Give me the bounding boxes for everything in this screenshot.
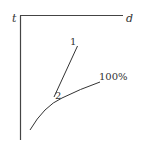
curve-label-100-percent: 100% [99,71,128,82]
label-2: 2 [55,90,61,101]
line-1-label: 1 [70,36,76,47]
axis-label-d: d [126,12,133,25]
axis-label-t: t [12,12,17,25]
curve-100-percent [30,82,100,130]
diagram: t d 1 100% 2 [0,0,141,147]
